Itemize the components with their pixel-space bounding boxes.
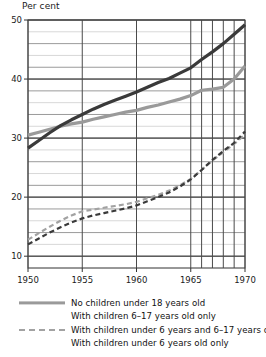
legend-item: No children under 18 years old: [0, 296, 266, 310]
y-tick-label: 20: [2, 192, 22, 202]
legend-item-label: With children 6–17 years old only: [71, 311, 216, 321]
legend-item-label: No children under 18 years old: [71, 298, 205, 308]
chart-legend: No children under 18 years oldWith child…: [0, 296, 266, 350]
plot-area: [0, 0, 266, 300]
x-tick-marks: [28, 268, 245, 272]
y-tick-label: 50: [2, 15, 22, 25]
x-tick-label: 1965: [171, 275, 211, 285]
legend-item: With children under 6 years old only: [0, 337, 266, 351]
legend-item: With children under 6 years and 6–17 yea…: [0, 323, 266, 337]
legend-item-label: With children under 6 years and 6–17 yea…: [71, 325, 266, 335]
y-tick-marks: [24, 20, 28, 256]
x-tick-label: 1960: [117, 275, 157, 285]
x-tick-label: 1970: [225, 275, 265, 285]
legend-swatch-dash-gray-icon: [19, 324, 65, 335]
legend-item: With children 6–17 years old only: [0, 310, 266, 324]
legend-swatch-solid-gray-icon: [19, 297, 65, 308]
x-tick-label: 1950: [8, 275, 48, 285]
legend-swatch-none-icon: [19, 338, 65, 349]
y-tick-label: 30: [2, 133, 22, 143]
chart-container: Per cent 5040302010 19501955196019651970…: [0, 0, 266, 357]
legend-item-label: With children under 6 years old only: [71, 338, 229, 348]
legend-swatch-none-icon: [19, 311, 65, 322]
y-tick-label: 10: [2, 251, 22, 261]
x-gridlines: [28, 20, 245, 268]
x-tick-label: 1955: [62, 275, 102, 285]
y-tick-label: 40: [2, 74, 22, 84]
